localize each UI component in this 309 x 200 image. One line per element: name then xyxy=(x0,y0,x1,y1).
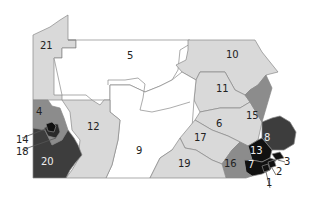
label-20: 20 xyxy=(41,156,54,167)
label-12: 12 xyxy=(87,121,100,132)
label-10: 10 xyxy=(226,49,239,60)
label-18: 18 xyxy=(16,146,29,157)
label-7: 7 xyxy=(248,159,254,170)
label-3: 3 xyxy=(284,156,290,167)
label-1: 1 xyxy=(266,177,272,188)
district-map: 21 5 10 11 4 12 9 6 15 17 19 16 8 13 7 3… xyxy=(0,0,309,200)
region-3[interactable] xyxy=(272,152,284,160)
label-9: 9 xyxy=(136,145,142,156)
label-5: 5 xyxy=(127,50,133,61)
label-4: 4 xyxy=(36,106,42,117)
label-21: 21 xyxy=(40,40,53,51)
label-14: 14 xyxy=(16,134,29,145)
label-2: 2 xyxy=(276,166,282,177)
label-16: 16 xyxy=(224,158,237,169)
label-13: 13 xyxy=(250,145,263,156)
label-11: 11 xyxy=(216,83,229,94)
label-8: 8 xyxy=(264,132,270,143)
label-15: 15 xyxy=(246,110,259,121)
label-6: 6 xyxy=(216,118,222,129)
label-17: 17 xyxy=(194,132,207,143)
map-svg: 21 5 10 11 4 12 9 6 15 17 19 16 8 13 7 3… xyxy=(0,0,309,200)
label-19: 19 xyxy=(178,158,191,169)
